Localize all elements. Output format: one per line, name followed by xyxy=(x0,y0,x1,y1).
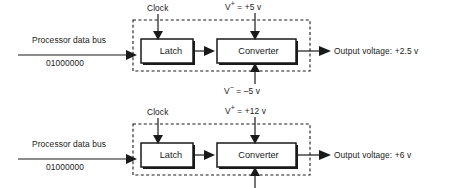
clock-label: Clock xyxy=(147,108,168,116)
latch-block-label: Latch xyxy=(146,151,196,160)
input-bus-value: 01000000 xyxy=(46,163,84,171)
output-voltage-label: Output voltage: +6 v xyxy=(334,151,411,159)
output-voltage-label: Output voltage: +2.5 v xyxy=(334,47,418,55)
vpos-sign: + xyxy=(231,0,235,7)
clock-label: Clock xyxy=(147,4,168,12)
input-bus-label: Processor data bus xyxy=(32,140,106,148)
latch-to-converter-arrowhead xyxy=(204,150,215,160)
latch-to-converter-arrowhead xyxy=(204,46,215,56)
vpos-supply-label: V+ = +12 v xyxy=(225,107,266,115)
converter-block-label: Converter xyxy=(220,47,297,56)
input-bus-label: Processor data bus xyxy=(32,36,106,44)
vpos-sign: + xyxy=(231,104,235,111)
input-arrowhead xyxy=(126,50,137,60)
vpos-supply-label: V+ = +5 v xyxy=(225,3,261,11)
dac-panel-2: Clock V+ = +12 v V− = –12 v Processor da… xyxy=(0,104,453,188)
output-arrowhead xyxy=(319,150,331,160)
vneg-value: = –5 v xyxy=(236,86,260,96)
vneg-supply-label: V− = –5 v xyxy=(224,87,260,95)
input-bus-value: 01000000 xyxy=(46,59,84,67)
output-arrowhead xyxy=(319,46,331,56)
converter-block-label: Converter xyxy=(220,151,297,160)
input-arrowhead xyxy=(126,154,137,164)
vpos-value: = +5 v xyxy=(237,2,261,12)
vpos-value: = +12 v xyxy=(237,106,266,116)
dac-panel-1: Clock V+ = +5 v V− = –5 v Processor data… xyxy=(0,0,453,104)
diagram-canvas: Clock V+ = +5 v V− = –5 v Processor data… xyxy=(0,0,453,188)
latch-block-label: Latch xyxy=(146,47,196,56)
vneg-sign: − xyxy=(230,84,234,91)
